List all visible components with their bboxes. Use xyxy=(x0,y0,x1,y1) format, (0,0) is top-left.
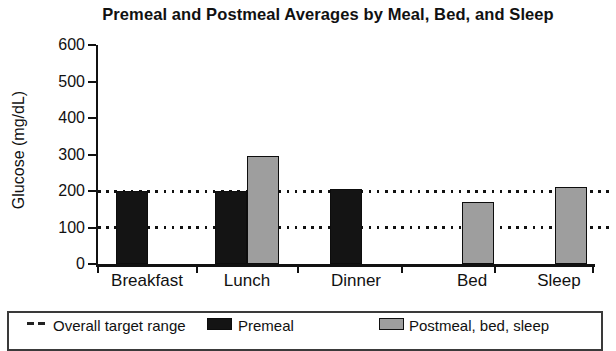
x-axis-label-lunch: Lunch xyxy=(187,271,307,291)
bar-bed-postmeal xyxy=(462,202,494,264)
x-axis-line xyxy=(96,264,595,267)
y-axis-tick-label: 500 xyxy=(38,73,85,91)
bar-sleep-postmeal xyxy=(555,187,587,264)
y-axis-tick xyxy=(88,154,96,156)
y-axis-tick xyxy=(88,81,96,83)
y-axis-tick xyxy=(88,227,96,229)
target-range-dash-icon xyxy=(27,322,48,325)
y-axis-tick-label: 300 xyxy=(38,146,85,164)
legend-label-postmeal: Postmeal, bed, sleep xyxy=(409,317,549,334)
y-axis-tick xyxy=(88,44,96,46)
bar-breakfast-premeal xyxy=(116,191,148,264)
bar-lunch-postmeal xyxy=(247,156,279,264)
x-axis-label-sleep: Sleep xyxy=(499,271,616,291)
y-axis-line xyxy=(96,45,99,266)
y-axis-tick-label: 400 xyxy=(38,109,85,127)
y-axis-tick xyxy=(88,190,96,192)
legend-label-premeal: Premeal xyxy=(238,317,294,334)
legend-label-target-range: Overall target range xyxy=(53,317,186,334)
bar-dinner-premeal xyxy=(330,189,362,264)
legend-box: Overall target range Premeal Postmeal, b… xyxy=(7,311,603,351)
bar-lunch-premeal xyxy=(215,191,247,264)
x-axis-label-dinner: Dinner xyxy=(296,271,416,291)
y-axis-tick-label: 100 xyxy=(38,219,85,237)
premeal-swatch-icon xyxy=(207,318,232,330)
y-axis-tick xyxy=(88,117,96,119)
y-axis-tick xyxy=(88,263,96,265)
y-axis-tick-label: 200 xyxy=(38,182,85,200)
y-axis-tick-label: 0 xyxy=(38,255,85,273)
postmeal-swatch-icon xyxy=(379,318,404,330)
y-axis-tick-label: 600 xyxy=(38,36,85,54)
